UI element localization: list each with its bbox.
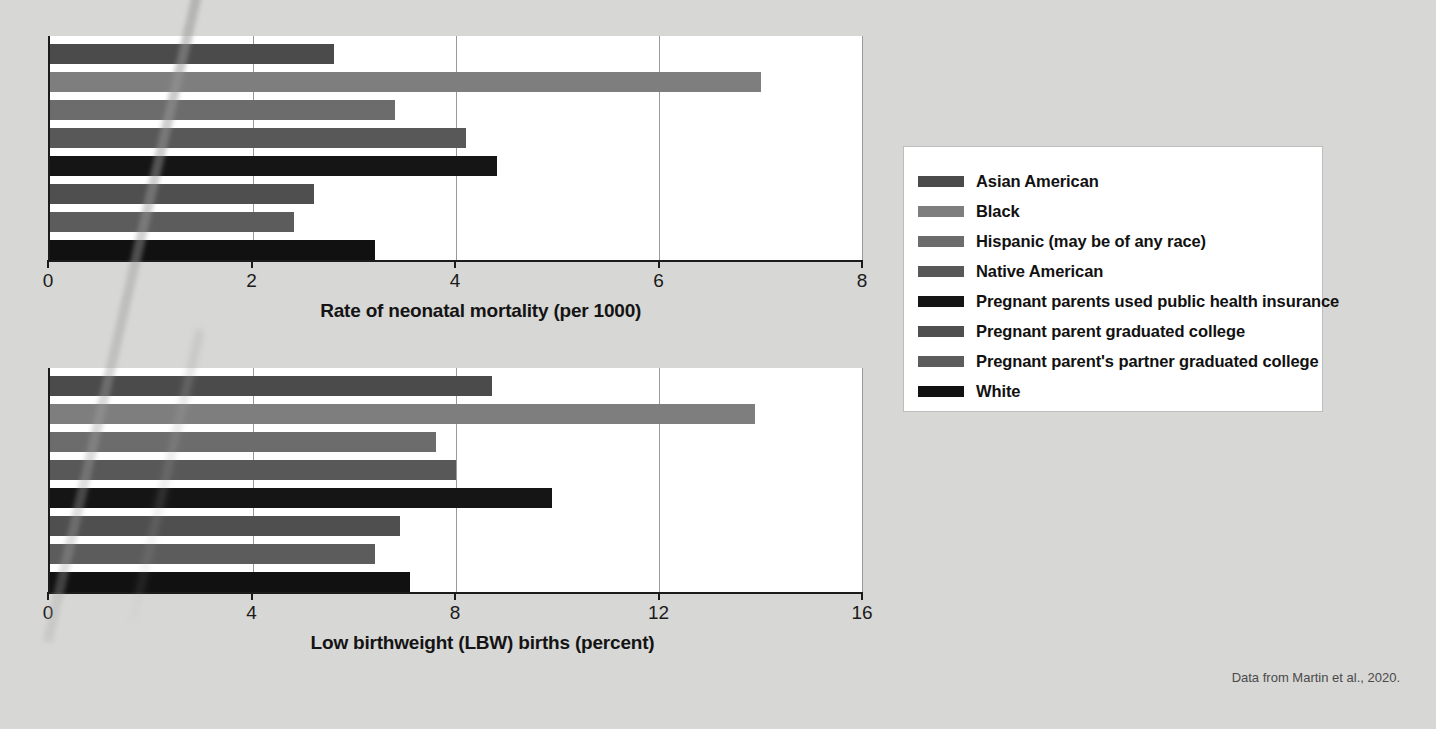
bar-fill [50, 156, 497, 176]
bar-neonatal-4 [50, 156, 497, 176]
bar-fill [50, 488, 552, 508]
x-tick [47, 260, 49, 268]
bar-lbw-5 [50, 516, 400, 536]
legend-item-label: Native American [976, 262, 1103, 281]
legend-swatch-icon [918, 356, 964, 367]
x-tick-label: 6 [653, 270, 664, 292]
bar-neonatal-2 [50, 100, 395, 120]
legend-swatch-icon [918, 326, 964, 337]
bar-lbw-3 [50, 460, 456, 480]
legend-swatch-icon [918, 236, 964, 247]
plot-area-neonatal [48, 36, 862, 260]
bar-lbw-4 [50, 488, 552, 508]
legend-item-4: Pregnant parents used public health insu… [918, 287, 1322, 315]
legend-item-label: Black [976, 202, 1020, 221]
bars-neonatal [50, 36, 862, 260]
bar-lbw-1 [50, 404, 755, 424]
bar-fill [50, 212, 294, 232]
legend-item-3: Native American [918, 257, 1322, 285]
x-tick-label: 0 [43, 270, 54, 292]
x-axis-title-neonatal: Rate of neonatal mortality (per 1000) [320, 300, 641, 322]
x-tick-label: 16 [851, 602, 872, 624]
legend-item-label: Asian American [976, 172, 1099, 191]
bar-fill [50, 544, 375, 564]
x-tick [251, 592, 253, 600]
gridline [862, 36, 863, 260]
x-tick-label: 4 [450, 270, 461, 292]
x-tick [861, 592, 863, 600]
x-tick-label: 8 [857, 270, 868, 292]
legend-item-7: White [918, 377, 1322, 405]
x-tick [658, 592, 660, 600]
x-tick-label: 4 [246, 602, 257, 624]
gridline [862, 368, 863, 592]
attribution-text: Data from Martin et al., 2020. [1232, 670, 1400, 685]
x-tick [454, 592, 456, 600]
legend-item-6: Pregnant parent's partner graduated coll… [918, 347, 1322, 375]
legend-swatch-icon [918, 206, 964, 217]
bar-lbw-7 [50, 572, 410, 592]
x-tick [658, 260, 660, 268]
x-tick [454, 260, 456, 268]
legend-swatch-icon [918, 266, 964, 277]
bar-neonatal-6 [50, 212, 294, 232]
x-tick [861, 260, 863, 268]
bar-fill [50, 404, 755, 424]
bar-fill [50, 72, 761, 92]
bar-lbw-6 [50, 544, 375, 564]
x-tick-label: 8 [450, 602, 461, 624]
bar-fill [50, 184, 314, 204]
legend-item-5: Pregnant parent graduated college [918, 317, 1322, 345]
bar-neonatal-0 [50, 44, 334, 64]
bar-fill [50, 128, 466, 148]
legend-swatch-icon [918, 176, 964, 187]
legend-swatch-icon [918, 296, 964, 307]
figure-container: 02468 Rate of neonatal mortality (per 10… [0, 0, 1436, 729]
legend-item-1: Black [918, 197, 1322, 225]
bar-fill [50, 572, 410, 592]
legend-box: Asian AmericanBlackHispanic (may be of a… [903, 146, 1323, 412]
bar-neonatal-7 [50, 240, 375, 260]
bar-fill [50, 460, 456, 480]
bars-lbw [50, 368, 862, 592]
bar-fill [50, 376, 492, 396]
legend-item-label: Hispanic (may be of any race) [976, 232, 1206, 251]
bar-fill [50, 516, 400, 536]
x-tick-label: 0 [43, 602, 54, 624]
legend-item-label: White [976, 382, 1020, 401]
legend-item-0: Asian American [918, 167, 1322, 195]
legend-item-label: Pregnant parent graduated college [976, 322, 1245, 341]
bar-fill [50, 432, 436, 452]
x-tick-label: 12 [648, 602, 669, 624]
chart-low-birthweight: 0481216 Low birthweight (LBW) births (pe… [48, 368, 862, 592]
chart-neonatal-mortality: 02468 Rate of neonatal mortality (per 10… [48, 36, 862, 260]
bar-fill [50, 100, 395, 120]
bar-lbw-0 [50, 376, 492, 396]
bar-neonatal-1 [50, 72, 761, 92]
x-tick-label: 2 [246, 270, 257, 292]
legend-item-label: Pregnant parent's partner graduated coll… [976, 352, 1319, 371]
bar-fill [50, 44, 334, 64]
x-axis-title-lbw: Low birthweight (LBW) births (percent) [311, 632, 655, 654]
x-tick [251, 260, 253, 268]
x-tick [47, 592, 49, 600]
bar-lbw-2 [50, 432, 436, 452]
legend-item-2: Hispanic (may be of any race) [918, 227, 1322, 255]
legend-swatch-icon [918, 386, 964, 397]
bar-neonatal-5 [50, 184, 314, 204]
legend-item-label: Pregnant parents used public health insu… [976, 292, 1339, 311]
bar-fill [50, 240, 375, 260]
bar-neonatal-3 [50, 128, 466, 148]
plot-area-lbw [48, 368, 862, 592]
